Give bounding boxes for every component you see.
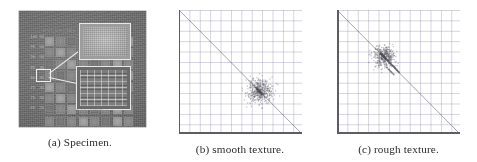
specimen-pad <box>56 83 65 92</box>
plate-row-value: 70 <box>31 96 38 100</box>
specimen-pad <box>101 117 110 126</box>
plate-row-value-secondary: 25 <box>40 106 44 110</box>
sampled-pad-marker <box>36 69 51 82</box>
plate-row-value-secondary: 35 <box>40 86 44 90</box>
caption-b: (b) smooth texture. <box>196 144 284 155</box>
scatter-points-b <box>179 10 302 134</box>
plate-row-value: 75 <box>31 86 38 90</box>
specimen-pad <box>45 94 54 103</box>
inset-rough-surface <box>80 70 127 106</box>
specimen-pad <box>56 48 65 57</box>
specimen-pad <box>45 83 54 92</box>
specimen-pad <box>45 37 54 46</box>
specimen-pad <box>56 37 65 46</box>
inset-smooth-texture <box>79 23 131 60</box>
subfigure-b-smooth-texture: (b) smooth texture. <box>160 0 320 155</box>
inset-smooth-surface <box>83 27 127 56</box>
subfigure-c-rough-texture: (c) rough texture. <box>320 0 477 155</box>
plate-footer-line-2: 4 8 12 16 20 24 28 32 (kHz) <box>47 116 97 120</box>
subfigure-a-specimen: W/WC SPECIMEN 105 95 90 85 80 75 70 65 6… <box>0 0 160 148</box>
figure-panel-row: W/WC SPECIMEN 105 95 90 85 80 75 70 65 6… <box>0 0 477 162</box>
specimen-pad <box>45 60 54 69</box>
specimen-pad <box>113 117 122 126</box>
plate-row-value: 95 <box>31 45 38 49</box>
plate-row-value-secondary: 60 <box>40 35 44 39</box>
specimen-photograph: W/WC SPECIMEN 105 95 90 85 80 75 70 65 6… <box>19 11 146 127</box>
specimen-pad <box>124 117 133 126</box>
inset-rough-texture <box>76 66 131 110</box>
specimen-pad <box>45 48 54 57</box>
caption-a: (a) Specimen. <box>48 137 112 148</box>
specimen-pad <box>67 37 76 46</box>
scatter-points-c <box>337 10 460 134</box>
plate-row-value-secondary: 30 <box>40 96 44 100</box>
scatter-plot-smooth <box>179 10 302 134</box>
specimen-pad <box>56 94 65 103</box>
plate-header-label: W/WC SPECIMEN <box>43 29 76 33</box>
caption-c: (c) rough texture. <box>358 144 439 155</box>
plate-row-value: 105 <box>31 35 38 39</box>
plate-row-value: 90 <box>31 55 38 59</box>
plate-row-value-secondary: 55 <box>40 45 44 49</box>
scatter-plot-rough <box>337 10 460 134</box>
plate-row-value-secondary: 50 <box>40 55 44 59</box>
plate-row-value: 65 <box>31 106 38 110</box>
plate-footer-line-1: Feature x Range (0-4.0 / 0-88.00 s) <box>45 109 108 113</box>
